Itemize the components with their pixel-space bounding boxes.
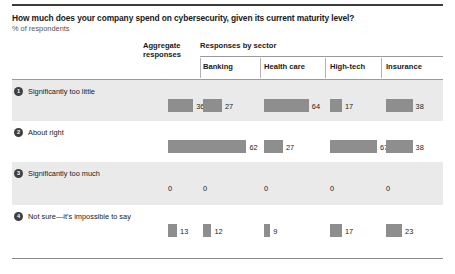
bar <box>168 99 193 112</box>
bar-value: 17 <box>345 102 353 111</box>
column-header-aggregate-line1: Aggregate <box>143 41 195 50</box>
column-header-banking: Banking <box>203 62 233 71</box>
bar <box>330 140 377 153</box>
bar <box>203 224 211 237</box>
bar-cell: 17 <box>330 99 382 112</box>
column-header-high-tech: High-tech <box>330 62 365 71</box>
row-number-badge: 1 <box>14 87 23 96</box>
bar-value: 0 <box>203 184 207 193</box>
bar-value: 27 <box>225 102 233 111</box>
column-divider-1 <box>200 58 201 78</box>
bar <box>264 224 270 237</box>
bar-value: 0 <box>330 184 334 193</box>
bar-value: 64 <box>312 102 320 111</box>
bar-value: 0 <box>386 184 390 193</box>
table-row: 3Significantly too much00000 <box>12 162 443 205</box>
row-label: Significantly too much <box>28 169 146 178</box>
bar-cell: 38 <box>386 140 438 153</box>
column-group-header-sector: Responses by sector <box>200 41 276 50</box>
bar-cell: 0 <box>203 181 255 194</box>
bar <box>330 224 342 237</box>
row-number-badge: 4 <box>14 212 23 221</box>
bar-value: 27 <box>286 143 294 152</box>
bar-value: 13 <box>180 227 188 236</box>
bar <box>386 140 413 153</box>
table-row: 2About right5162276738 <box>12 121 443 162</box>
bar-cell: 17 <box>330 224 382 237</box>
bar <box>264 140 283 153</box>
bar <box>203 99 222 112</box>
bar-value: 38 <box>416 143 424 152</box>
bar-cell: 0 <box>330 181 382 194</box>
column-header-health-care: Health care <box>264 62 305 71</box>
column-header-aggregate: Aggregate responses <box>143 41 195 59</box>
page-title: How much does your company spend on cybe… <box>12 13 442 23</box>
bar-value: 17 <box>345 227 353 236</box>
bar <box>330 99 342 112</box>
bar-value: 9 <box>273 227 277 236</box>
bar-cell: 27 <box>264 140 320 153</box>
bar-value: 12 <box>214 227 222 236</box>
bar-value: 0 <box>264 184 268 193</box>
sector-group-rule <box>200 56 443 57</box>
bar-cell: 62 <box>203 140 255 153</box>
top-rule <box>12 4 443 6</box>
page-subtitle: % of respondents <box>12 24 70 33</box>
bar-cell: 67 <box>330 140 382 153</box>
column-divider-2 <box>260 58 261 78</box>
bar <box>168 140 204 153</box>
table-row: 1Significantly too little3627641738 <box>12 80 443 121</box>
bar-value: 62 <box>249 143 257 152</box>
row-label: About right <box>28 128 146 137</box>
bar-cell: 9 <box>264 224 320 237</box>
row-number-badge: 3 <box>14 169 23 178</box>
row-label: Not sure—it's impossible to say <box>28 212 146 221</box>
bar <box>168 224 177 237</box>
row-number-badge: 2 <box>14 128 23 137</box>
row-label: Significantly too little <box>28 87 146 96</box>
bar-value: 0 <box>168 184 172 193</box>
bar-cell: 23 <box>386 224 438 237</box>
bar-value: 38 <box>416 102 424 111</box>
table-row: 4Not sure—it's impossible to say13129172… <box>12 205 443 250</box>
column-divider-3 <box>325 58 326 78</box>
bottom-rule <box>12 258 443 259</box>
bar-cell: 27 <box>203 99 255 112</box>
column-header-insurance: Insurance <box>386 62 422 71</box>
column-divider-4 <box>381 58 382 78</box>
bar <box>386 99 413 112</box>
bar-cell: 64 <box>264 99 320 112</box>
bar <box>203 140 246 153</box>
bar-cell: 0 <box>386 181 438 194</box>
exhibit-panel: How much does your company spend on cybe… <box>0 0 455 274</box>
bar-cell: 38 <box>386 99 438 112</box>
column-header-aggregate-line2: responses <box>143 50 195 59</box>
bar-cell: 0 <box>264 181 320 194</box>
bar-value: 23 <box>405 227 413 236</box>
bar-cell: 12 <box>203 224 255 237</box>
bar <box>386 224 402 237</box>
bar <box>264 99 309 112</box>
